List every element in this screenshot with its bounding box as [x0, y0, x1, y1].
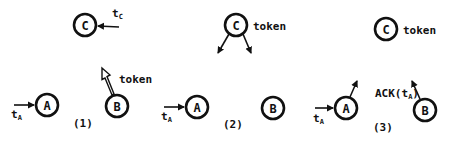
node-b: B [106, 95, 128, 117]
node-a: A [335, 97, 357, 119]
svg-text:A: A [342, 102, 350, 116]
svg-text:C: C [81, 19, 88, 33]
svg-text:A: A [43, 99, 51, 113]
svg-text:B: B [269, 102, 276, 116]
node-b: B [262, 97, 284, 119]
panel-2: C token A tA B (2) [161, 14, 286, 131]
a-output-arrow-icon [350, 81, 357, 97]
svg-text:C: C [382, 23, 389, 37]
panel-1: C tC A tA B token (1) [11, 7, 152, 130]
token-label: token [119, 73, 152, 86]
svg-text:A: A [193, 101, 201, 115]
node-c: C [74, 14, 96, 36]
ta-label: tA [313, 112, 325, 126]
panel-caption-1: (1) [73, 117, 93, 130]
token-label: token [403, 24, 436, 37]
panel-caption-2: (2) [223, 118, 243, 131]
svg-text:B: B [113, 100, 120, 114]
broadcast-left-arrow-icon [218, 34, 229, 53]
node-a: A [36, 94, 58, 116]
broadcast-right-arrow-icon [243, 34, 251, 53]
ta-label: tA [161, 110, 173, 124]
node-b: B [414, 99, 436, 121]
ta-label: tA [11, 108, 23, 122]
token-protocol-diagram: C tC A tA B token (1) C token A [0, 0, 455, 144]
node-a: A [186, 96, 208, 118]
panel-3: C token A tA B ACK(tA) (3) [313, 18, 436, 134]
tc-label: tC [112, 7, 123, 21]
tc-input-arrow-icon [98, 26, 119, 27]
panel-caption-3: (3) [373, 121, 393, 134]
node-c: C [225, 14, 247, 36]
ack-label: ACK(tA) [375, 87, 419, 101]
token-label: token [253, 20, 286, 33]
svg-text:C: C [232, 19, 239, 33]
svg-text:B: B [421, 104, 428, 118]
token-hollow-arrow-icon [102, 68, 114, 95]
node-c: C [375, 18, 397, 40]
